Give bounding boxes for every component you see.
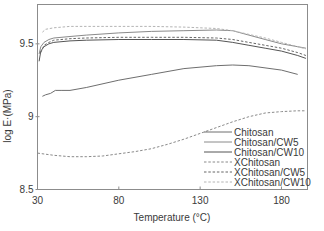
- chart-container: 30801301808.599.5 Temperature (°C) log E…: [0, 0, 324, 231]
- y-axis-label: log E·(MPa): [2, 89, 13, 142]
- series-line-chitosan: [42, 65, 297, 96]
- line-chart: 30801301808.599.5 Temperature (°C) log E…: [0, 0, 324, 231]
- y-tick-label: 9.5: [20, 38, 34, 49]
- x-tick-label: 130: [192, 195, 209, 206]
- x-tick-label: 80: [113, 195, 125, 206]
- series-line-chitosan-cw5: [39, 30, 306, 54]
- legend: ChitosanChitosan/CW5Chitosan/CW10XChitos…: [204, 127, 311, 188]
- x-tick-label: 180: [273, 195, 290, 206]
- x-tick-label: 30: [32, 195, 44, 206]
- series-line-chitosan-cw10: [39, 40, 306, 62]
- y-tick-label: 8.5: [20, 184, 34, 195]
- legend-label: XChitosan/CW10: [234, 177, 311, 188]
- y-tick-label: 9: [28, 111, 34, 122]
- x-axis-label: Temperature (°C): [134, 212, 211, 223]
